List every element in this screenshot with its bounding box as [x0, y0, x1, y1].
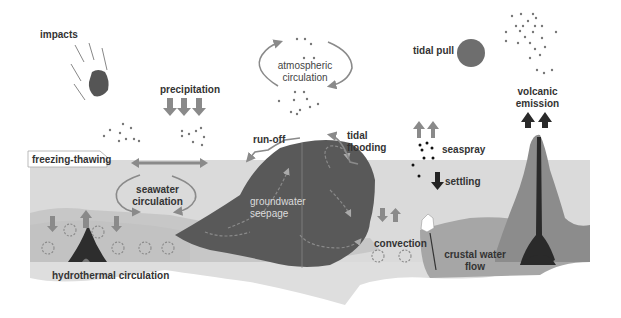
precipitation-label: precipitation	[160, 84, 220, 96]
seaspray-label: seaspray	[442, 144, 485, 156]
crustal-water-flow-label-2: flow	[440, 261, 510, 273]
volcanic-emission-label-2: emission	[515, 98, 560, 110]
impacts-label: impacts	[40, 29, 78, 41]
precipitation-arrows	[163, 98, 206, 116]
tidal-pull-label: tidal pull	[413, 45, 454, 57]
freezing-thawing-label: freezing-thawing	[32, 154, 111, 166]
meteor-icon	[71, 43, 109, 100]
run-off-label: run-off	[253, 134, 285, 146]
seawater-circulation-label-2: circulation	[130, 196, 185, 208]
crustal-water-flow-label-1: crustal water	[440, 249, 510, 261]
atmospheric-circulation-label-2: circulation	[275, 72, 335, 84]
seawater-circulation-label-1: seawater	[130, 184, 185, 196]
settling-label: settling	[445, 176, 481, 188]
groundwater-seepage-label-2: seepage	[250, 208, 288, 220]
tidal-flooding-label-2: flooding	[347, 142, 386, 154]
groundwater-seepage-label-1: groundwater	[250, 196, 306, 208]
moon-icon	[457, 39, 485, 67]
seaspray-up-arrows	[413, 121, 439, 138]
atmospheric-circulation-label-1: atmospheric	[275, 60, 335, 72]
hydrothermal-circulation-label: hydrothermal circulation	[52, 270, 169, 282]
tidal-flooding-label-1: tidal	[347, 130, 368, 142]
volcanic-emission-arrows	[521, 112, 552, 128]
convection-label: convection	[374, 238, 427, 250]
volcanic-emission-label-1: volcanic	[515, 86, 560, 98]
